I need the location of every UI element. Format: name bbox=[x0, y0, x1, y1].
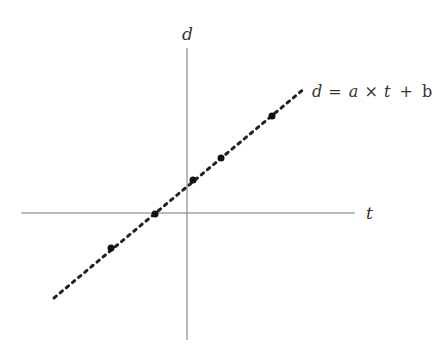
data-point bbox=[108, 245, 115, 252]
equation-equals: = bbox=[328, 82, 341, 101]
dotted-fit-line bbox=[54, 88, 305, 298]
data-point bbox=[190, 177, 197, 184]
line-equation: d = a × t + b bbox=[312, 82, 432, 101]
data-point bbox=[218, 155, 225, 162]
data-point bbox=[269, 113, 276, 120]
equation-plus: + bbox=[400, 82, 413, 101]
data-point bbox=[152, 211, 159, 218]
vertical-axis-label: d bbox=[182, 24, 193, 44]
equation-b: b bbox=[422, 82, 432, 101]
horizontal-axis-label: t bbox=[366, 203, 373, 223]
equation-a: a bbox=[349, 82, 359, 101]
equation-t: t bbox=[384, 82, 391, 101]
linear-relation-diagram: d t d = a × t + b bbox=[0, 0, 437, 362]
equation-d: d bbox=[312, 82, 322, 101]
equation-times: × bbox=[364, 82, 377, 101]
